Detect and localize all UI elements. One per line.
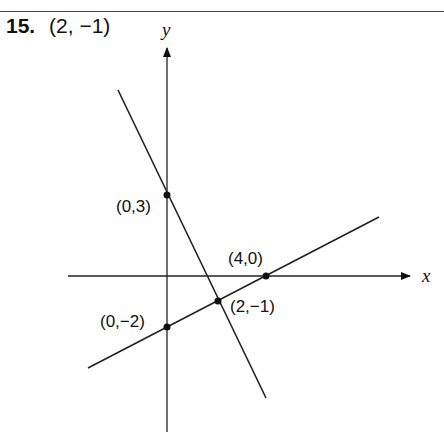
label-0-m2: (0,−2) bbox=[100, 312, 145, 331]
graph: x y (0,3) (4,0) (2,−1) (0,−2) bbox=[0, 0, 444, 434]
x-axis-label: x bbox=[421, 265, 431, 286]
label-0-3: (0,3) bbox=[116, 197, 151, 216]
label-4-0: (4,0) bbox=[228, 249, 263, 268]
label-2-m1: (2,−1) bbox=[230, 297, 275, 316]
point-4-0 bbox=[263, 273, 270, 280]
point-0-3 bbox=[164, 192, 171, 199]
point-0-m2 bbox=[164, 324, 171, 331]
y-axis-label: y bbox=[160, 19, 171, 40]
line-steep bbox=[118, 90, 266, 398]
line-shallow bbox=[88, 217, 379, 368]
point-2-m1 bbox=[215, 298, 222, 305]
